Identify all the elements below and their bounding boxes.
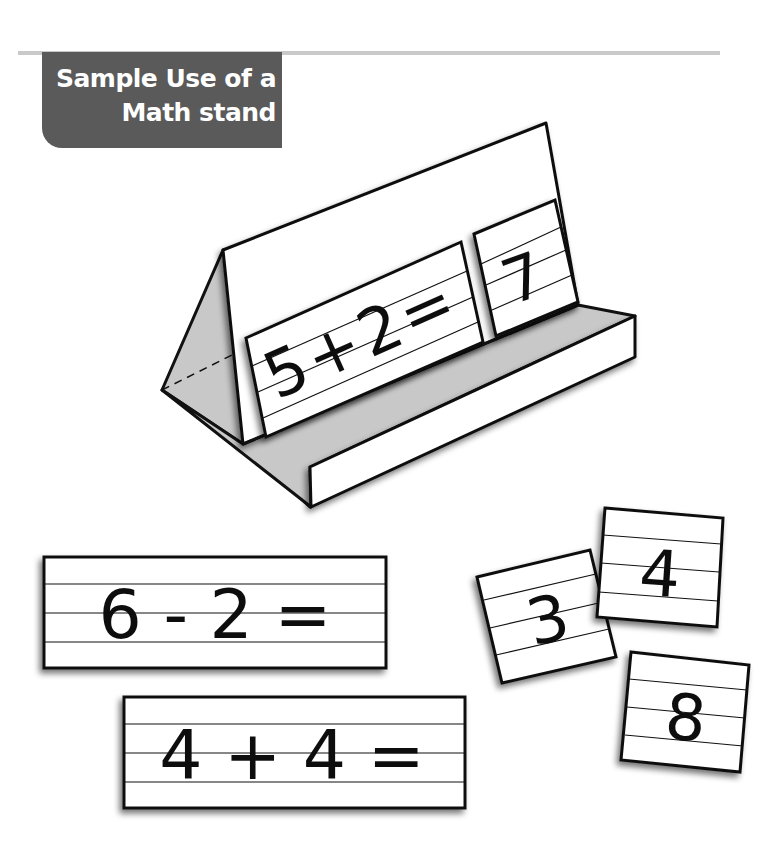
equation-card-2-text: 4 + 4 = bbox=[159, 716, 424, 795]
number-card-8: 8 bbox=[621, 652, 749, 772]
equation-card-1: 6 - 2 = bbox=[44, 557, 386, 668]
math-stand-illustration: 5+2= 7 6 - 2 = 4 + 4 = 3 4 bbox=[0, 0, 773, 852]
number-card-3: 3 bbox=[477, 550, 616, 683]
number-card-4-text: 4 bbox=[637, 536, 683, 613]
equation-card-1-text: 6 - 2 = bbox=[99, 575, 332, 654]
equation-card-2: 4 + 4 = bbox=[124, 697, 465, 808]
number-card-8-text: 8 bbox=[662, 679, 709, 756]
number-card-4: 4 bbox=[597, 508, 723, 627]
